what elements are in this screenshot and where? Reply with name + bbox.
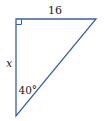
right-angle-marker: [16, 19, 22, 25]
left-side-label: x: [6, 57, 13, 70]
triangle: [16, 19, 96, 116]
triangle-diagram: 16 x 40°: [0, 0, 105, 121]
angle-label: 40°: [19, 84, 38, 96]
top-side-label: 16: [48, 4, 62, 17]
